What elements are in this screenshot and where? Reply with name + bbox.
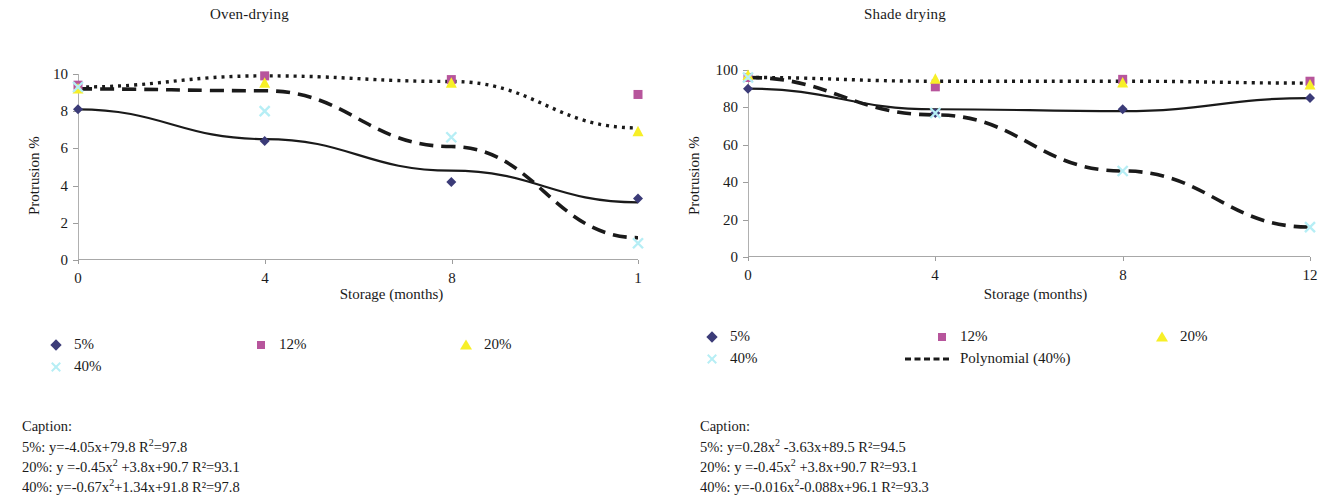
caption-text: +1.34x+91.8 R²=97.8 (114, 479, 240, 495)
caption-line-20pct-left: 20%: y =-0.45x2 +3.8x+90.7 R²=93.1 (22, 455, 240, 475)
y-tick-label-right-5: 0 (704, 249, 738, 266)
triangle-marker-icon (458, 338, 474, 352)
caption-oven-drying: Caption: 5%: y=-4.05x+79.8 R2=97.8 20%: … (22, 418, 240, 495)
legend-item-40pct-left[interactable]: 40% (48, 358, 102, 375)
caption-shade-drying: Caption: 5%: y=0.28x2 -3.63x+89.5 R²=94.… (700, 418, 929, 495)
legend-label-20pct-right: 20% (1180, 328, 1208, 345)
x-tick-left-0 (78, 260, 79, 264)
y-tick-label-right-4: 20 (704, 211, 738, 228)
y-axis-title-left: Protrusion % (26, 136, 43, 215)
data-point-20pct (930, 73, 941, 84)
dashed-line-icon (904, 352, 950, 366)
fit-curve-dashed (78, 89, 638, 238)
caption-text: +3.8x+90.7 R²=93.1 (796, 459, 918, 475)
legend-label-20pct-left: 20% (484, 336, 512, 353)
caption-heading-left: Caption: (22, 418, 240, 435)
data-point-40pct (446, 132, 456, 142)
data-point-5pct (73, 104, 83, 114)
caption-text: 20%: y =-0.45x (22, 459, 113, 475)
legend-label-5pct-right: 5% (730, 328, 750, 345)
data-point-5pct (446, 177, 456, 187)
legend-item-12pct-left[interactable]: 12% (253, 336, 307, 353)
diamond-marker-icon (48, 338, 64, 352)
legend-oven-drying: 5% 12% 20% 40% (48, 336, 648, 380)
caption-line-5pct-left: 5%: y=-4.05x+79.8 R2=97.8 (22, 435, 240, 455)
chart-panel-shade-drying: Shade drying Protrusion % 100 80 60 40 2… (664, 0, 1327, 493)
data-point-5pct (1305, 93, 1315, 103)
y-tick-label-right-0: 100 (704, 62, 738, 79)
y-tick-label-left-5: 0 (42, 252, 68, 269)
legend-item-5pct-right[interactable]: 5% (704, 328, 750, 345)
data-point-5pct (260, 136, 270, 146)
square-marker-icon (934, 330, 950, 344)
x-tick-label-right-1: 4 (931, 267, 939, 284)
caption-line-40pct-right: 40%: y=-0.016x2-0.088x+96.1 R²=93.3 (700, 475, 929, 495)
legend-label-12pct-left: 12% (279, 336, 307, 353)
y-tick-label-left-2: 6 (42, 140, 68, 157)
fit-curve-solid (78, 109, 638, 202)
data-point-40pct (260, 106, 270, 116)
legend-item-20pct-left[interactable]: 20% (458, 336, 512, 353)
x-axis-title-left: Storage (months) (0, 286, 723, 303)
x-tick-label-right-3: 12 (1303, 267, 1318, 284)
x-tick-right-8 (1123, 257, 1124, 261)
square-marker-icon (253, 338, 269, 352)
y-tick-label-right-2: 60 (704, 136, 738, 153)
legend-item-polynomial-40pct[interactable]: Polynomial (40%) (904, 350, 1070, 367)
fit-curve-dashed (748, 77, 1310, 227)
caption-text: 40%: y=-0.67x (22, 479, 109, 495)
x-tick-right-0 (748, 257, 749, 261)
diamond-marker-icon (704, 330, 720, 344)
legend-item-12pct-right[interactable]: 12% (934, 328, 988, 345)
caption-line-20pct-right: 20%: y =-0.45x2 +3.8x+90.7 R²=93.1 (700, 455, 929, 475)
legend-item-5pct-left[interactable]: 5% (48, 336, 94, 353)
x-tick-left-4 (265, 260, 266, 264)
plot-area-shade-drying: 100 80 60 40 20 0 0 4 8 12 (748, 70, 1310, 257)
legend-item-20pct-right[interactable]: 20% (1154, 328, 1208, 345)
x-tick-label-right-2: 8 (1119, 267, 1127, 284)
triangle-marker-icon (1154, 330, 1170, 344)
caption-text: =97.8 (154, 438, 188, 454)
legend-label-5pct-left: 5% (74, 336, 94, 353)
caption-heading-right: Caption: (700, 418, 929, 435)
caption-text: 5%: y=0.28x (700, 438, 775, 454)
x-tick-label-left-1: 4 (261, 270, 269, 287)
x-tick-label-left-3: 1 (634, 270, 642, 287)
chart-panel-oven-drying: Oven-drying Protrusion % 10 8 6 4 2 0 0 (0, 0, 663, 493)
y-tick-label-right-3: 40 (704, 174, 738, 191)
x-tick-right-12 (1310, 257, 1311, 261)
x-tick-label-left-2: 8 (448, 270, 456, 287)
legend-label-40pct-left: 40% (74, 358, 102, 375)
caption-text: 5%: y=-4.05x+79.8 R (22, 438, 149, 454)
legend-item-40pct-right[interactable]: 40% (704, 350, 758, 367)
y-tick-label-left-0: 10 (42, 66, 68, 83)
legend-label-12pct-right: 12% (960, 328, 988, 345)
series-canvas-shade-drying (748, 70, 1310, 257)
x-tick-label-right-0: 0 (744, 267, 752, 284)
caption-text: 40%: y=-0.016x (700, 479, 794, 495)
plot-area-oven-drying: 10 8 6 4 2 0 0 4 8 1 (78, 74, 638, 260)
x-tick-left-12 (638, 260, 639, 264)
legend-shade-drying: 5% 12% 20% 40% Polynomial (40% (704, 328, 1324, 372)
y-axis-title-right: Protrusion % (686, 136, 703, 215)
data-point-40pct (633, 238, 643, 248)
y-tick-label-right-1: 80 (704, 99, 738, 116)
data-point-5pct (743, 84, 753, 94)
legend-label-polynomial-40pct: Polynomial (40%) (960, 350, 1070, 367)
fit-curve-solid (748, 89, 1310, 111)
cross-marker-icon (48, 360, 64, 374)
cross-marker-icon (704, 352, 720, 366)
data-point-20pct (633, 126, 644, 137)
x-tick-left-8 (452, 260, 453, 264)
data-point-12pct (634, 90, 643, 99)
caption-text: 20%: y =-0.45x (700, 459, 791, 475)
x-tick-label-left-0: 0 (74, 270, 82, 287)
y-tick-label-left-3: 4 (42, 177, 68, 194)
fit-curve-dotted (748, 77, 1310, 83)
x-axis-title-right: Storage (months) (664, 286, 1327, 303)
caption-line-40pct-left: 40%: y=-0.67x2+1.34x+91.8 R²=97.8 (22, 475, 240, 495)
y-tick-label-left-4: 2 (42, 214, 68, 231)
series-canvas-oven-drying (78, 74, 638, 260)
legend-label-40pct-right: 40% (730, 350, 758, 367)
